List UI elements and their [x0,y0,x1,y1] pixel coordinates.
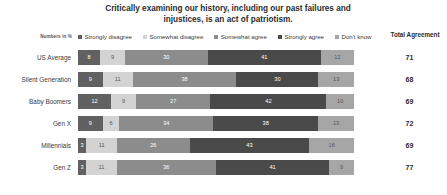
bar-segment-value: 36 [163,164,169,170]
bar-segment[interactable]: 36 [117,160,216,175]
bar-segment[interactable]: 9 [78,72,103,87]
legend-swatch-icon [214,35,218,39]
bar-segment-value: 8 [87,54,90,60]
bar-segment[interactable]: 6 [103,116,120,131]
bar-segment-value: 9 [89,120,92,126]
bar-segment-value: 3 [81,142,84,148]
bar-segment-value: 6 [110,120,113,126]
chart-container: Critically examining our history, includ… [0,0,447,195]
bar-segment-value: 11 [99,142,105,148]
bar-segment-value: 16 [329,142,335,148]
chart-legend: Numbers in % Strongly disagree Somewhat … [0,30,447,43]
legend-item-dont-know[interactable]: Don't know [335,33,371,40]
bar-segment-value: 13 [333,76,339,82]
bar-segment-value: 9 [340,164,343,170]
bar-segment[interactable]: 30 [236,72,318,87]
units-note: Numbers in % [0,34,78,39]
total-agreement-value: 69 [354,142,447,149]
bar-segment-value: 9 [89,76,92,82]
legend-label: Strongly agree [284,33,324,40]
bar-segment-value: 10 [337,98,343,104]
legend-label: Don't know [342,33,372,40]
bar-row: Gen X9634381372 [0,112,447,134]
bar-segment[interactable]: 43 [190,138,310,153]
bar-segment[interactable]: 9 [100,50,125,65]
legend-swatch-icon [278,35,282,39]
bar-segment[interactable]: 3 [78,160,86,175]
bar-segment-value: 3 [81,164,84,170]
bar-segment[interactable]: 38 [213,116,318,131]
legend-item-strongly-disagree[interactable]: Strongly disagree [78,33,132,40]
legend-swatch-icon [335,35,339,39]
bar-segment[interactable]: 9 [111,94,136,109]
bar-segment[interactable]: 26 [117,138,189,153]
legend-label: Somewhat agree [221,33,267,40]
chart-plot-area: US Average8930411271Silent Generation911… [0,46,447,194]
bar-segment[interactable]: 12 [321,50,354,65]
bar-row-label: Gen X [0,120,78,127]
bar-segment-value: 11 [99,164,105,170]
bar-segment-value: 41 [269,164,275,170]
bar-segment[interactable]: 11 [86,138,117,153]
bar-track: 129274210 [78,94,354,109]
bar-segment-value: 43 [246,142,252,148]
bar-segment[interactable]: 42 [210,94,326,109]
bar-segment[interactable]: 9 [329,160,354,175]
bar-track: 311264316 [78,138,354,153]
bar-segment[interactable]: 41 [216,160,329,175]
bar-segment[interactable]: 11 [86,160,116,175]
bar-segment[interactable]: 30 [125,50,208,65]
bar-row-label: Millennials [0,142,78,149]
legend-item-somewhat-disagree[interactable]: Somewhat disagree [143,33,203,40]
bar-segment-value: 12 [91,98,97,104]
bar-segment[interactable]: 11 [103,72,133,87]
bar-segment[interactable]: 3 [78,138,86,153]
total-agreement-value: 71 [354,54,447,61]
bar-segment[interactable]: 13 [318,72,354,87]
bar-segment[interactable]: 16 [309,138,354,153]
bar-segment-value: 41 [261,54,267,60]
bar-track: 911383013 [78,72,354,87]
bar-row-label: Gen Z [0,164,78,171]
bar-segment-value: 30 [274,76,280,82]
bar-segment-value: 30 [163,54,169,60]
bar-segment-value: 12 [334,54,340,60]
bar-segment-value: 27 [170,98,176,104]
legend-item-somewhat-agree[interactable]: Somewhat agree [214,33,267,40]
total-agreement-value: 68 [354,76,447,83]
bar-segment[interactable]: 38 [133,72,237,87]
bar-segment[interactable]: 8 [78,50,100,65]
bar-segment[interactable]: 27 [136,94,211,109]
bar-segment[interactable]: 13 [318,116,354,131]
chart-title-line-1: Critically examining our history, includ… [78,3,378,14]
bar-segment-value: 42 [265,98,271,104]
bar-track: 31136419 [78,160,354,175]
bar-row-label: US Average [0,54,78,61]
bar-segment-value: 34 [163,120,169,126]
total-agreement-header: Total Agreement [387,31,443,38]
legend-label: Strongly disagree [85,33,132,40]
bar-segment-value: 13 [333,120,339,126]
bar-row-label: Baby Boomers [0,98,78,105]
bar-segment[interactable]: 34 [119,116,213,131]
bar-track: 89304112 [78,50,354,65]
bar-segment[interactable]: 41 [208,50,321,65]
bar-segment[interactable]: 12 [78,94,111,109]
legend-swatch-icon [143,35,147,39]
bar-segment-value: 11 [115,76,121,82]
bar-row: Millennials31126431669 [0,134,447,156]
legend-items: Strongly disagree Somewhat disagree Some… [78,33,371,40]
bar-segment[interactable]: 9 [78,116,103,131]
bar-segment-value: 38 [181,76,187,82]
chart-title: Critically examining our history, includ… [78,3,378,25]
total-agreement-value: 77 [354,164,447,171]
legend-label: Somewhat disagree [149,33,203,40]
bar-row: Gen Z3113641977 [0,156,447,178]
total-agreement-value: 69 [354,98,447,105]
bar-segment-value: 9 [122,98,125,104]
total-agreement-value: 72 [354,120,447,127]
bar-segment-value: 38 [263,120,269,126]
bar-segment[interactable]: 10 [326,94,354,109]
bar-row: US Average8930411271 [0,46,447,68]
legend-item-strongly-agree[interactable]: Strongly agree [278,33,324,40]
